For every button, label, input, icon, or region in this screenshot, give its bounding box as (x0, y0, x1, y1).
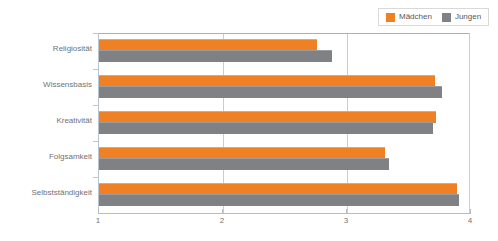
x-tick-1 (98, 209, 99, 214)
x-tick-label-1: 1 (96, 217, 100, 225)
bar-jungen (99, 122, 433, 134)
legend-label-jungen: Jungen (455, 13, 481, 21)
legend-item-jungen[interactable]: Jungen (442, 13, 481, 22)
x-tick-label-3: 3 (344, 217, 348, 225)
x-tick-label-2: 2 (220, 217, 224, 225)
category-label-selbstst-ndigkeit: Selbstständigkeit (32, 189, 92, 197)
legend-swatch-orange-icon (386, 13, 395, 22)
y-tick (93, 177, 98, 178)
x-tick-label-4: 4 (468, 217, 472, 225)
legend-label-maedchen: Mädchen (399, 13, 432, 21)
category-label-kreativit-t: Kreativität (56, 117, 92, 125)
category-label-religiosit-t: Religiosität (53, 45, 92, 53)
legend-item-maedchen[interactable]: Mädchen (386, 13, 432, 22)
x-tick-2 (222, 209, 223, 214)
category-label-wissensbasis: Wissensbasis (43, 81, 92, 89)
x-tick-3 (346, 209, 347, 214)
x-axis-line (98, 213, 470, 214)
bar-jungen (99, 50, 332, 62)
category-label-folgsamkeit: Folgsamkeit (49, 153, 92, 161)
bar-chart: Mädchen Jungen 1234 ReligiositätWissensb… (0, 0, 498, 241)
bar-jungen (99, 86, 442, 98)
chart-legend: Mädchen Jungen (378, 8, 489, 26)
y-tick (93, 141, 98, 142)
plot-area (98, 33, 470, 213)
bar-jungen (99, 158, 389, 170)
x-tick-4 (470, 209, 471, 214)
y-tick (93, 69, 98, 70)
bar-jungen (99, 194, 459, 206)
legend-swatch-gray-icon (442, 13, 451, 22)
y-tick (93, 105, 98, 106)
y-tick (93, 33, 98, 34)
